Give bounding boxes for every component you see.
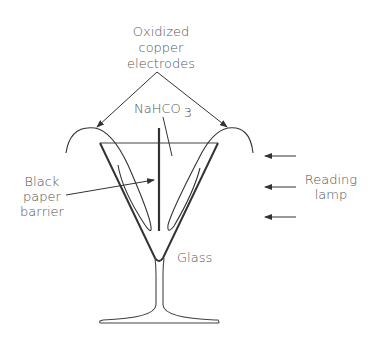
solution-leader xyxy=(163,117,172,156)
solution-label-main: NaHCO xyxy=(134,101,181,116)
electrode-leader-left xyxy=(97,72,157,127)
electrodes-label-line1: Oxidized xyxy=(133,24,189,39)
barrier-label-line2: paper xyxy=(23,189,61,204)
barrier-label-line1: Black xyxy=(25,174,60,189)
glass-stem xyxy=(100,258,219,323)
electrochemistry-diagram: Oxidized copper electrodes NaHCO3 Black … xyxy=(0,0,382,337)
lamp-label-line2: lamp xyxy=(315,187,348,202)
glass-label: Glass xyxy=(177,250,212,265)
barrier-label-line3: barrier xyxy=(20,204,65,219)
barrier-leader xyxy=(66,180,154,195)
solution-label-subscript: 3 xyxy=(184,105,192,120)
lamp-label-line1: Reading xyxy=(305,172,357,187)
electrodes-label-line3: electrodes xyxy=(127,56,195,71)
electrodes-label-line2: copper xyxy=(139,40,185,55)
